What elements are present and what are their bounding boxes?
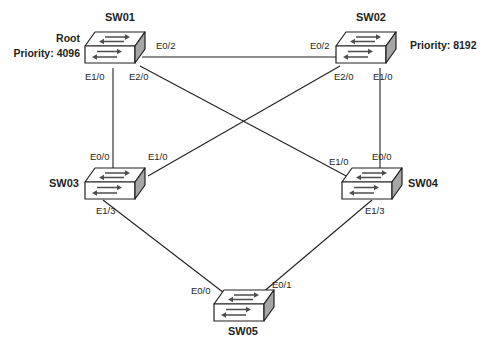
port-label-sw02-e0-2: E0/2: [310, 41, 330, 51]
sw01-priority-annotation: Root Priority: 4096: [0, 33, 80, 58]
port-label-sw01-e1-0: E1/0: [85, 72, 105, 82]
port-label-sw02-e1-0: E1/0: [373, 72, 393, 82]
port-label-sw01-e2-0: E2/0: [129, 72, 149, 82]
port-label-sw01-e0-2: E0/2: [156, 41, 176, 51]
port-label-sw03-e1-3: E1/3: [96, 206, 116, 216]
link-sw02-sw03: [148, 66, 340, 176]
sw01-root-label: Root: [0, 33, 80, 44]
switch-icon-sw04[interactable]: [342, 168, 402, 199]
port-label-sw02-e2-0: E2/0: [334, 72, 354, 82]
port-label-sw04-e1-3: E1/3: [365, 206, 385, 216]
port-label-sw03-e1-0: E1/0: [148, 152, 168, 162]
device-label-sw03: SW03: [49, 178, 79, 189]
network-topology-diagram: SW01 SW02 SW03 SW04 SW05 Root Priority: …: [0, 0, 497, 355]
switch-icon-sw01[interactable]: [85, 32, 145, 63]
port-label-sw05-e0-0: E0/0: [191, 286, 211, 296]
device-label-sw02: SW02: [356, 12, 386, 23]
switch-icon-sw05[interactable]: [214, 290, 274, 321]
device-label-sw01: SW01: [105, 12, 135, 23]
device-label-sw05: SW05: [228, 326, 258, 337]
switch-icon-sw03[interactable]: [85, 168, 145, 199]
link-sw03-sw05: [103, 200, 228, 296]
port-label-sw04-e1-0: E1/0: [329, 157, 349, 167]
port-label-sw04-e0-0: E0/0: [372, 152, 392, 162]
sw01-priority-label: Priority: 4096: [0, 48, 80, 59]
port-label-sw05-e0-1: E0/1: [272, 280, 292, 290]
sw02-priority-label: Priority: 8192: [410, 40, 477, 51]
link-sw01-sw04: [140, 66, 350, 178]
port-label-sw03-e0-0: E0/0: [90, 152, 110, 162]
device-label-sw04: SW04: [408, 178, 438, 189]
switch-icon-sw02[interactable]: [336, 32, 396, 63]
